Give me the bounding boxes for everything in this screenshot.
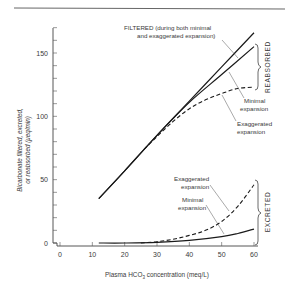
filtered-leader [222, 40, 238, 58]
bicarbonate-chart: 0501001500102030405060 FILTERED (during … [0, 0, 294, 292]
reabsorbed-minimal-label-2: expansion [240, 105, 269, 112]
y-axis-title: Bicarbonate filtered, excreted, or reabs… [16, 108, 32, 192]
x-tick-label: 40 [185, 251, 193, 258]
reabsorbed-exaggerated-label-2: expansion [237, 128, 266, 135]
series-group [99, 33, 254, 243]
axes: 0501001500102030405060 [36, 28, 258, 258]
y-tick-label: 100 [36, 113, 48, 120]
reabsorbed-brace [255, 44, 261, 90]
x-tick-label: 60 [250, 251, 258, 258]
x-tick-label: 30 [153, 251, 161, 258]
excreted-exaggerated-leader [210, 185, 229, 211]
reabsorbed-minimal-label: Minimal [244, 97, 265, 104]
excreted-side-label: EXCRETED [264, 192, 271, 233]
svg-text:or reabsorbed (μeq/min): or reabsorbed (μeq/min) [24, 116, 32, 184]
excreted-exaggerated-label-2: expansion [181, 183, 210, 190]
x-axis-title: Plasma HCO3 concentration (meq/L) [105, 271, 209, 280]
y-tick-label: 50 [40, 176, 48, 183]
reabsorbed-exaggerated-label: Exaggerated [237, 120, 273, 127]
excreted-minimal-label: Minimal [182, 196, 203, 203]
svg-text:Bicarbonate filtered, excreted: Bicarbonate filtered, excreted, [16, 108, 23, 192]
reabsorbed-side-label: REABSORBED [264, 41, 271, 93]
excreted-brace [255, 180, 261, 245]
series-line-2 [144, 87, 254, 149]
x-tick-label: 10 [88, 251, 96, 258]
y-tick-label: 150 [36, 50, 48, 57]
y-tick-label: 0 [44, 240, 48, 247]
reabsorbed-exaggerated-leader [222, 95, 236, 121]
excreted-minimal-leader [206, 205, 224, 234]
x-tick-label: 20 [121, 251, 129, 258]
x-tick-label: 0 [58, 251, 62, 258]
excreted-minimal-label-2: expansion [178, 204, 207, 211]
x-tick-label: 50 [218, 251, 226, 258]
excreted-exaggerated-label: Exaggerated [174, 175, 210, 182]
reabsorbed-minimal-leader [229, 72, 244, 98]
series-line-4 [99, 229, 254, 243]
filtered-label: FILTERED (during both minimal [124, 24, 211, 31]
top-rule [14, 8, 285, 9]
filtered-label-2: and exaggerated expansion) [137, 32, 215, 39]
